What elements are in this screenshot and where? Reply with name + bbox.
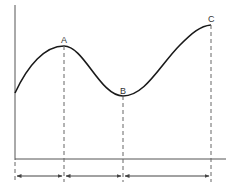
diagram-canvas: A B C <box>0 0 235 196</box>
point-label-a: A <box>61 35 67 45</box>
wave-curve <box>15 25 211 96</box>
point-label-b: B <box>120 86 126 96</box>
cycle-diagram: A B C <box>0 0 235 196</box>
point-label-c: C <box>208 14 215 24</box>
